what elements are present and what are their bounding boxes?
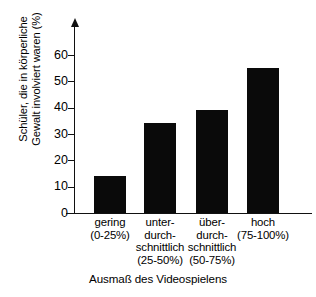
x-axis-line	[66, 213, 312, 214]
x-axis-category-label-line: (50-75%)	[176, 254, 248, 267]
x-axis-category-label-line: hoch	[227, 216, 299, 229]
x-axis-category-label: hoch(75-100%)	[227, 216, 299, 241]
x-axis-category-label-line: (75-100%)	[227, 229, 299, 242]
y-axis-tick-mark	[68, 213, 75, 214]
bar	[94, 176, 126, 213]
x-axis-category-labels: gering(0-25%)unter-durch-schnittlich(25-…	[0, 216, 316, 270]
x-axis-title: Ausmaß des Videospielens	[0, 272, 316, 285]
x-axis-category-label-line: schnittlich	[176, 241, 248, 254]
bar	[144, 123, 176, 213]
bars-layer	[0, 0, 316, 213]
bar-chart-figure: Schüler, die in körperliche Gewalt invol…	[0, 0, 316, 297]
bar	[247, 68, 279, 213]
bar	[196, 110, 228, 213]
